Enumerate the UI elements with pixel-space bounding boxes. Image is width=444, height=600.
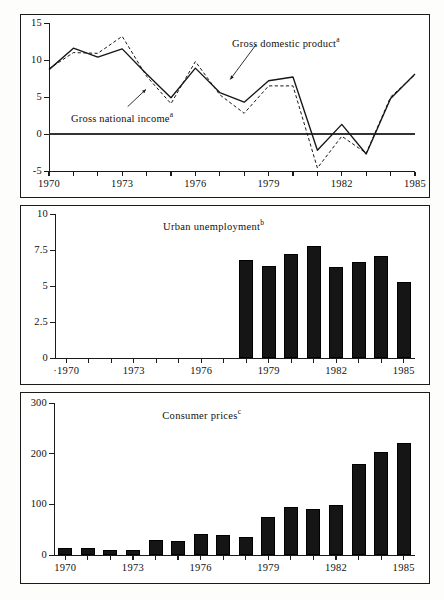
figure-container: -5051015197019731976197919821985Gross do… <box>0 0 444 600</box>
x-tick <box>201 359 202 363</box>
y-tick-label: 5 <box>43 281 48 292</box>
chart-panel-consumer-prices: 0100200300197019731976197919821985Consum… <box>20 392 430 584</box>
x-tick <box>403 359 404 363</box>
x-tick <box>177 556 178 560</box>
bar-1972 <box>103 550 117 555</box>
bar-1978 <box>239 537 253 555</box>
x-tick-label: 1979 <box>244 563 292 574</box>
bar-1981 <box>306 509 320 555</box>
y-tick <box>50 250 55 251</box>
bar-1979 <box>261 517 275 555</box>
bar-1982 <box>329 505 343 555</box>
x-tick <box>65 556 66 560</box>
x-tick-label: 1982 <box>312 563 360 574</box>
x-tick <box>268 556 269 560</box>
footnote-marker: b <box>260 218 264 227</box>
x-tick <box>200 556 201 560</box>
bar-1974 <box>149 540 163 555</box>
y-tick-label: 7.5 <box>34 245 48 256</box>
y-axis-line <box>54 403 55 555</box>
bar-1977 <box>216 535 230 555</box>
x-tick-label: ·1970 <box>42 366 90 377</box>
y-tick <box>50 286 55 287</box>
x-tick <box>178 359 179 363</box>
bar-1980 <box>284 507 298 555</box>
x-tick <box>291 359 292 363</box>
y-tick-label: 200 <box>31 449 47 460</box>
x-tick-label: 1973 <box>110 366 158 377</box>
y-tick-label: 100 <box>31 499 47 510</box>
x-tick <box>156 359 157 363</box>
bar-1976 <box>194 534 208 555</box>
y-tick <box>49 453 54 454</box>
bar-1979 <box>262 266 276 358</box>
x-tick <box>155 556 156 560</box>
chart-title: Consumer pricesc <box>162 407 241 421</box>
x-tick <box>111 359 112 363</box>
x-tick <box>381 359 382 363</box>
x-tick-label: 1985 <box>380 366 428 377</box>
leader-gdp <box>230 45 256 79</box>
x-tick <box>403 556 404 560</box>
x-tick <box>132 556 133 560</box>
x-tick <box>358 556 359 560</box>
bar-1983 <box>352 262 366 358</box>
x-tick <box>313 359 314 363</box>
x-tick-label: 1979 <box>245 366 293 377</box>
x-tick <box>110 556 111 560</box>
y-tick <box>49 555 54 556</box>
x-tick <box>133 359 134 363</box>
x-tick <box>88 359 89 363</box>
y-tick-label: 2.5 <box>34 317 48 328</box>
x-tick-label: 1976 <box>177 563 225 574</box>
bar-1971 <box>81 548 95 555</box>
x-tick <box>246 359 247 363</box>
bar-1981 <box>307 246 321 358</box>
x-tick <box>268 359 269 363</box>
footnote-marker: c <box>238 407 242 416</box>
bar-1984 <box>374 256 388 358</box>
x-tick <box>290 556 291 560</box>
y-tick-label: 0 <box>43 353 48 364</box>
y-tick <box>50 214 55 215</box>
x-tick <box>87 556 88 560</box>
chart-title: Urban unemploymentb <box>163 218 264 232</box>
bar-1985 <box>397 443 411 555</box>
y-tick <box>50 358 55 359</box>
x-tick <box>245 556 246 560</box>
bar-1985 <box>397 282 411 358</box>
x-tick-label: 1985 <box>380 563 428 574</box>
x-tick <box>358 359 359 363</box>
bar-1984 <box>374 452 388 555</box>
bar-1973 <box>126 550 140 555</box>
chart-panel-unemployment: 02.557.510·197019731976197919821985Urban… <box>20 205 430 385</box>
x-tick-label: 1976 <box>177 366 225 377</box>
bar-1980 <box>284 254 298 358</box>
x-tick <box>223 359 224 363</box>
x-tick-label: 1970 <box>41 563 89 574</box>
x-tick <box>336 359 337 363</box>
y-axis-line <box>55 214 56 358</box>
y-tick-label: 0 <box>42 550 47 561</box>
y-tick-label: 10 <box>37 209 48 220</box>
x-tick <box>381 556 382 560</box>
bar-1982 <box>329 267 343 358</box>
x-tick <box>66 359 67 363</box>
x-tick-label: 1973 <box>109 563 157 574</box>
y-tick <box>50 322 55 323</box>
x-tick <box>335 556 336 560</box>
x-axis-line <box>54 555 415 556</box>
y-tick <box>49 403 54 404</box>
chart-panel-gdp: -5051015197019731976197919821985Gross do… <box>20 14 430 198</box>
x-tick-label: 1982 <box>312 366 360 377</box>
y-tick-label: 300 <box>31 398 47 409</box>
bar-1983 <box>352 464 366 555</box>
x-axis-line <box>55 358 415 359</box>
bar-1978 <box>239 260 253 358</box>
y-tick <box>49 504 54 505</box>
annotation-leaders-svg <box>21 15 429 197</box>
bar-1970 <box>58 548 72 555</box>
bar-1975 <box>171 541 185 555</box>
x-tick <box>223 556 224 560</box>
x-tick <box>313 556 314 560</box>
